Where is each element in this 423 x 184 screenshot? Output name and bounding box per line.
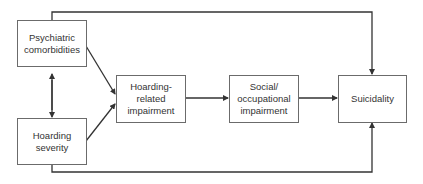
node-social-occupational-impairment: Social/ occupational impairment — [229, 75, 299, 123]
edge-severity-to-hoarding — [86, 104, 115, 141]
edge-psychiatric-to-hoarding — [86, 46, 115, 94]
node-hoarding-related-impairment: Hoarding- related impairment — [116, 75, 186, 123]
node-psychiatric-comorbidities: Psychiatric comorbidities — [17, 20, 87, 67]
edge-severity-to-suicidality — [52, 123, 372, 172]
node-hoarding-severity: Hoarding severity — [17, 118, 87, 165]
edge-psychiatric-to-suicidality — [52, 12, 372, 74]
node-suicidality: Suicidality — [338, 75, 407, 123]
